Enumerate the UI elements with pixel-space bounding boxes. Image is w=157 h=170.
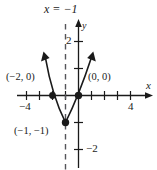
y-axis-arrowhead xyxy=(75,19,82,27)
x-axis-arrowhead xyxy=(145,92,153,99)
parabola-curve xyxy=(45,58,91,123)
x-tick-label-neg4: −4 xyxy=(19,101,31,112)
axis-of-symmetry-label: x = −1 xyxy=(44,3,78,15)
graph-canvas xyxy=(0,0,157,170)
point-vertex-marker xyxy=(62,119,69,126)
y-tick-label-neg2: −2 xyxy=(86,143,98,154)
point-left-root-marker xyxy=(49,92,56,99)
y-tick-label-2: 2 xyxy=(66,35,72,46)
point-label-vertex: (−1, −1) xyxy=(14,126,49,137)
x-tick-label-4: 4 xyxy=(128,101,134,112)
parabola-figure: x = −1 y x −4 4 2 −2 (−2, 0) (0, 0) (−1,… xyxy=(0,0,157,170)
y-axis-label: y xyxy=(82,21,86,31)
point-label-left-root: (−2, 0) xyxy=(6,72,35,83)
point-label-origin: (0, 0) xyxy=(88,72,111,83)
point-origin-marker xyxy=(75,92,82,99)
x-axis-label: x xyxy=(146,80,151,91)
parabola-right-arrowhead xyxy=(87,52,96,62)
